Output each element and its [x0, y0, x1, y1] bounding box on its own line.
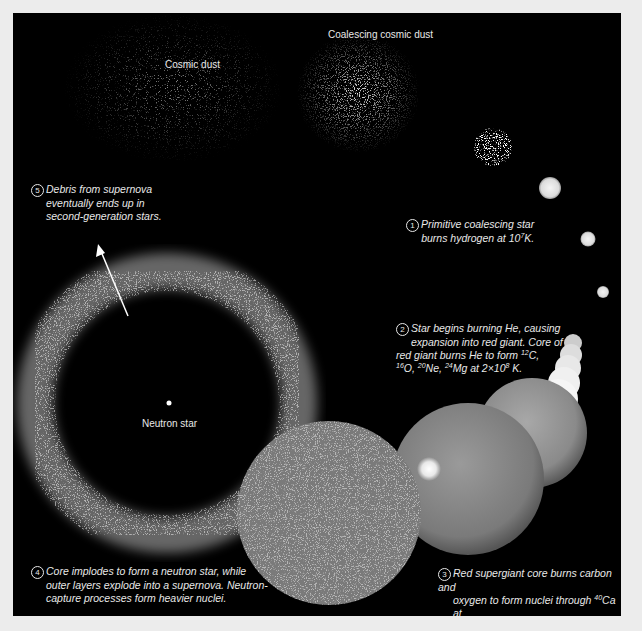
small-star-1 — [539, 177, 561, 199]
cosmic-dust-cloud — [63, 13, 283, 163]
coalescing-dust-label: Coalescing cosmic dust — [328, 28, 433, 41]
step-5-number: 5 — [31, 184, 44, 197]
coalescing-star — [474, 128, 512, 166]
diagram-panel: Cosmic dust Coalescing cosmic dust Neutr… — [13, 13, 621, 616]
cosmic-dust-label: Cosmic dust — [165, 58, 220, 71]
small-star-2 — [581, 232, 596, 247]
step-3-number: 3 — [438, 568, 451, 581]
step-1-caption: 1Primitive coalescing star burns hydroge… — [406, 218, 534, 245]
step-1-number: 1 — [406, 219, 419, 232]
step-5-caption: 5Debris from supernova eventually ends u… — [31, 183, 162, 223]
neutron-star-label: Neutron star — [142, 417, 197, 430]
step-4-caption: 4Core implodes to form a neutron star, w… — [31, 565, 268, 605]
small-star-3 — [597, 286, 609, 298]
supergiant-core — [417, 457, 441, 481]
step-2-caption: 2Star begins burning He, causing expansi… — [396, 322, 563, 375]
neutron-star — [167, 401, 172, 406]
coalescing-dust-cloud — [296, 33, 420, 153]
stellar-cycle-illustration — [13, 13, 621, 616]
step-3-caption: 3Red supergiant core burns carbon and ox… — [438, 567, 621, 616]
step-4-number: 4 — [31, 566, 44, 579]
step-2-number: 2 — [396, 323, 409, 336]
